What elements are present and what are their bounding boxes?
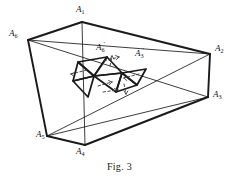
vertex-label-a6: A6 xyxy=(9,29,18,38)
edge-a3-a4 xyxy=(85,97,208,145)
vertex-label-a2-base: A xyxy=(215,43,221,53)
vertex-label-a3-base: A xyxy=(213,89,219,99)
vertex-label-a2: A2 xyxy=(215,44,224,53)
vertex-label-a3-prime: A3′ xyxy=(135,49,145,58)
vertex-label-a6-base: A xyxy=(9,28,15,38)
edge-a5-a3 xyxy=(47,97,208,136)
vertex-label-a1-sub: 1 xyxy=(82,8,85,15)
edge-a1-a4 xyxy=(82,22,85,145)
vertex-label-a1: A1 xyxy=(76,5,85,14)
edge-a4-a5 xyxy=(47,136,85,145)
figure-3-container: A1 A2 A3 A4 A5 A6 A6′ A3′ Fig. 3 xyxy=(0,0,239,181)
figure-caption: Fig. 3 xyxy=(0,161,239,172)
vertex-label-a5: A5 xyxy=(36,130,45,139)
figure-3-diagram xyxy=(0,0,239,181)
vertex-label-a6-prime-base: A xyxy=(96,42,102,52)
vertex-label-a3-prime-base: A xyxy=(135,48,141,58)
vertex-label-a4-base: A xyxy=(76,146,82,156)
vertex-label-a6-prime: A6′ xyxy=(96,43,106,52)
vertex-label-a1-base: A xyxy=(76,4,82,14)
vertex-label-a5-base: A xyxy=(36,129,42,139)
vertex-label-a3-prime-mark: ′ xyxy=(143,46,145,54)
vertex-label-a4: A4 xyxy=(76,147,85,156)
vertex-label-a2-sub: 2 xyxy=(221,47,224,54)
vertex-label-a3-sub: 3 xyxy=(219,93,222,100)
vertex-label-a3: A3 xyxy=(213,90,222,99)
dashed-arrow-2 xyxy=(71,70,87,76)
vertex-label-a4-sub: 4 xyxy=(82,150,85,157)
edge-a6-a1 xyxy=(28,22,82,40)
vertex-label-a6-sub: 6 xyxy=(15,32,18,39)
edge-a5-a6 xyxy=(28,40,47,136)
vertex-label-a6-prime-mark: ′ xyxy=(104,40,106,48)
vertex-label-a5-sub: 5 xyxy=(42,133,45,140)
edge-a5-a2 xyxy=(47,54,210,136)
inner-triangle-7 xyxy=(116,73,137,92)
edge-a2-a3 xyxy=(208,54,210,97)
